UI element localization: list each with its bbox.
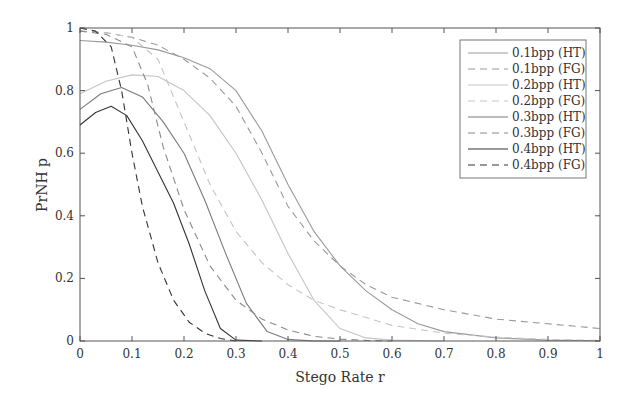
- y-tick-label: 0: [66, 334, 74, 348]
- series-line-2: [80, 75, 444, 341]
- legend-label: 0.1bpp (FG): [512, 62, 585, 76]
- legend-label: 0.4bpp (HT): [512, 142, 586, 156]
- legend-label: 0.2bpp (HT): [512, 78, 586, 92]
- x-tick-label: 0.9: [538, 347, 557, 361]
- y-tick-label: 0.4: [55, 209, 74, 223]
- x-tick-label: 0: [76, 347, 84, 361]
- x-tick-label: 0.5: [330, 347, 349, 361]
- legend: 0.1bpp (HT)0.1bpp (FG)0.2bpp (HT)0.2bpp …: [460, 40, 586, 178]
- legend-label: 0.3bpp (FG): [512, 126, 585, 140]
- series-line-6: [80, 106, 262, 341]
- x-tick-label: 0.6: [382, 347, 401, 361]
- x-tick-label: 0.7: [434, 347, 453, 361]
- x-tick-label: 0.3: [226, 347, 245, 361]
- y-axis-label: PrNH p: [34, 158, 50, 212]
- x-tick-label: 0.8: [486, 347, 505, 361]
- x-tick-label: 0.1: [122, 347, 141, 361]
- y-tick-label: 0.8: [55, 84, 74, 98]
- series-line-5: [80, 31, 392, 341]
- y-tick-label: 0.2: [55, 271, 74, 285]
- line-chart: 00.10.20.30.40.50.60.70.80.9100.20.40.60…: [0, 0, 633, 401]
- y-tick-label: 1: [66, 21, 74, 35]
- x-axis-label: Stego Rate r: [295, 369, 385, 385]
- y-tick-label: 0.6: [55, 146, 74, 160]
- series-line-7: [80, 28, 236, 341]
- x-tick-label: 1: [596, 347, 604, 361]
- legend-label: 0.3bpp (HT): [512, 110, 586, 124]
- legend-label: 0.1bpp (HT): [512, 46, 586, 60]
- x-tick-label: 0.2: [174, 347, 193, 361]
- legend-label: 0.4bpp (FG): [512, 158, 585, 172]
- legend-label: 0.2bpp (FG): [512, 94, 585, 108]
- x-tick-label: 0.4: [278, 347, 297, 361]
